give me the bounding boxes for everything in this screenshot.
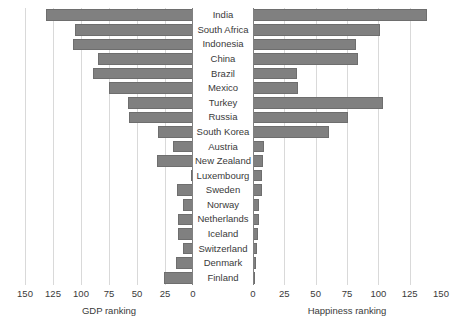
- bar-right-south-africa: [253, 24, 380, 36]
- bar-left-brazil: [93, 68, 193, 80]
- bar-left-sweden: [177, 184, 193, 196]
- bar-row: [25, 82, 193, 94]
- bar-left-indonesia: [73, 39, 193, 51]
- category-label-denmark: Denmark: [193, 258, 253, 268]
- bar-row: [253, 184, 441, 196]
- bar-row: [253, 126, 441, 138]
- bar-row: [253, 214, 441, 226]
- bar-row: [25, 199, 193, 211]
- left-tick-0: 0: [178, 288, 208, 299]
- category-label-sweden: Sweden: [193, 185, 253, 195]
- bar-row: [253, 112, 441, 124]
- bar-row: [253, 39, 441, 51]
- right-tick-150: 150: [426, 288, 454, 299]
- left-tick-100: 100: [66, 288, 96, 299]
- bar-right-india: [253, 9, 427, 21]
- bar-row: [253, 170, 441, 182]
- bar-right-sweden: [253, 184, 262, 196]
- bar-left-china: [98, 53, 193, 65]
- left-tick-25: 25: [150, 288, 180, 299]
- category-label-norway: Norway: [193, 200, 253, 210]
- right-tick-0: 0: [238, 288, 268, 299]
- category-label-switzerland: Switzerland: [193, 244, 253, 254]
- category-label-india: India: [193, 10, 253, 20]
- bar-row: [253, 272, 441, 284]
- category-label-indonesia: Indonesia: [193, 39, 253, 49]
- category-label-netherlands: Netherlands: [193, 214, 253, 224]
- bar-right-brazil: [253, 68, 297, 80]
- bar-row: [25, 53, 193, 65]
- bar-row: [25, 184, 193, 196]
- left-tick-125: 125: [38, 288, 68, 299]
- right-tick-125: 125: [395, 288, 425, 299]
- bar-row: [253, 228, 441, 240]
- category-label-south-korea: South Korea: [193, 127, 253, 137]
- bar-row: [25, 112, 193, 124]
- bar-right-new-zealand: [253, 155, 263, 167]
- bar-row: [25, 272, 193, 284]
- happiness-ranking-panel: [253, 8, 441, 285]
- bar-row: [253, 243, 441, 255]
- gdp-plot-area: [25, 8, 193, 285]
- category-label-luxembourg: Luxembourg: [193, 171, 253, 181]
- bar-row: [253, 9, 441, 21]
- category-label-mexico: Mexico: [193, 83, 253, 93]
- bar-row: [253, 141, 441, 153]
- bar-right-russia: [253, 112, 348, 124]
- bar-left-south-korea: [158, 126, 193, 138]
- bar-right-mexico: [253, 82, 298, 94]
- right-tick-50: 50: [301, 288, 331, 299]
- happiness-axis-title: Happiness ranking: [253, 305, 441, 316]
- category-label-russia: Russia: [193, 112, 253, 122]
- happiness-plot-area: [253, 8, 441, 285]
- bar-row: [253, 257, 441, 269]
- category-label-iceland: Iceland: [193, 229, 253, 239]
- bar-left-india: [46, 9, 193, 21]
- bar-row: [25, 68, 193, 80]
- category-label-austria: Austria: [193, 142, 253, 152]
- bar-row: [25, 214, 193, 226]
- bar-row: [25, 228, 193, 240]
- left-tick-50: 50: [122, 288, 152, 299]
- bar-row: [253, 68, 441, 80]
- bar-left-turkey: [128, 97, 193, 109]
- left-tick-75: 75: [94, 288, 124, 299]
- bar-left-new-zealand: [157, 155, 193, 167]
- bar-row: [253, 155, 441, 167]
- bar-row: [253, 53, 441, 65]
- bar-row: [253, 24, 441, 36]
- bar-left-mexico: [109, 82, 193, 94]
- bar-right-south-korea: [253, 126, 329, 138]
- bar-right-china: [253, 53, 358, 65]
- bar-right-luxembourg: [253, 170, 262, 182]
- right-tick-100: 100: [363, 288, 393, 299]
- left-tick-150: 150: [10, 288, 40, 299]
- bar-right-austria: [253, 141, 264, 153]
- category-label-turkey: Turkey: [193, 98, 253, 108]
- bar-row: [25, 97, 193, 109]
- bar-row: [25, 9, 193, 21]
- bar-right-turkey: [253, 97, 383, 109]
- bar-left-south-africa: [75, 24, 193, 36]
- bar-row: [25, 39, 193, 51]
- category-label-south-africa: South Africa: [193, 25, 253, 35]
- bar-row: [25, 24, 193, 36]
- bar-row: [25, 170, 193, 182]
- bar-left-netherlands: [178, 214, 193, 226]
- bar-row: [25, 141, 193, 153]
- value-axis-line: [253, 8, 254, 285]
- category-label-finland: Finland: [193, 273, 253, 283]
- category-label-new-zealand: New Zealand: [193, 156, 253, 166]
- bar-left-iceland: [178, 228, 193, 240]
- bar-left-finland: [164, 272, 193, 284]
- bar-row: [25, 155, 193, 167]
- value-axis-line: [192, 8, 193, 285]
- bar-left-austria: [173, 141, 193, 153]
- bar-right-indonesia: [253, 39, 356, 51]
- right-tick-25: 25: [269, 288, 299, 299]
- bar-row: [25, 243, 193, 255]
- bar-row: [253, 97, 441, 109]
- bar-row: [253, 199, 441, 211]
- category-label-column: IndiaSouth AfricaIndonesiaChinaBrazilMex…: [193, 8, 253, 285]
